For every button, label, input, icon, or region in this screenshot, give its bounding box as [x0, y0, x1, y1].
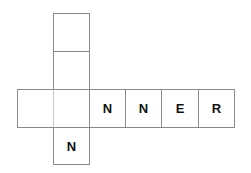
grid-cell-v4[interactable]: N	[53, 127, 90, 165]
grid-cell-h1[interactable]	[17, 89, 54, 128]
grid-cell-h4[interactable]: N	[125, 89, 162, 128]
grid-cell-h5[interactable]: E	[161, 89, 199, 128]
grid-cell-v2[interactable]	[53, 51, 90, 90]
grid-cell-h6[interactable]: R	[198, 89, 235, 128]
grid-cell-h2-intersection[interactable]	[53, 89, 90, 128]
grid-cell-h3[interactable]: N	[89, 89, 126, 128]
grid-cell-v1[interactable]	[53, 13, 90, 52]
